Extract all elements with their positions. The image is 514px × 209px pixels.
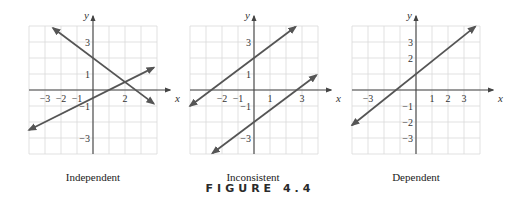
y-tick-label: 1 (246, 69, 251, 80)
y-tick-label: −2 (402, 117, 413, 128)
x-tick-label: 3 (462, 93, 467, 104)
caption-dependent: Dependent (392, 171, 440, 183)
graph-independent: xy−3−2−1231−1−3 (29, 9, 180, 154)
caption-independent: Independent (66, 171, 120, 183)
y-axis-label: y (244, 9, 250, 21)
x-tick-label: 3 (300, 93, 305, 104)
x-axis-label: x (497, 92, 503, 104)
x-tick-label: 1 (430, 93, 435, 104)
plot-line (212, 75, 316, 153)
x-tick-label: 2 (446, 93, 451, 104)
x-tick-label: −2 (217, 93, 228, 104)
y-tick-label: 1 (85, 69, 90, 80)
plot-line (352, 27, 475, 126)
figure-title: FIGURE 4.4 (206, 182, 315, 195)
y-tick-label: 3 (246, 37, 251, 48)
x-tick-label: 2 (123, 93, 128, 104)
x-axis-label: x (335, 92, 341, 104)
x-axis-label: x (174, 92, 180, 104)
x-tick-label: 1 (268, 93, 273, 104)
x-tick-label: −2 (56, 93, 67, 104)
y-axis-label: y (83, 9, 89, 21)
y-tick-label: −3 (79, 133, 90, 144)
y-tick-label: −3 (402, 133, 413, 144)
y-tick-label: −3 (240, 133, 251, 144)
graph-inconsistent: xy−2−11331−1−3 (190, 9, 341, 154)
y-tick-label: −1 (402, 101, 413, 112)
x-tick-label: −3 (40, 93, 51, 104)
y-tick-label: 3 (85, 37, 90, 48)
graph-dependent: xy−312332−1−2−3 (352, 9, 503, 154)
y-tick-label: 3 (408, 37, 413, 48)
y-tick-label: 2 (408, 53, 413, 64)
y-tick-label: −1 (240, 101, 251, 112)
x-tick-label: −3 (363, 93, 374, 104)
y-axis-label: y (406, 9, 412, 21)
